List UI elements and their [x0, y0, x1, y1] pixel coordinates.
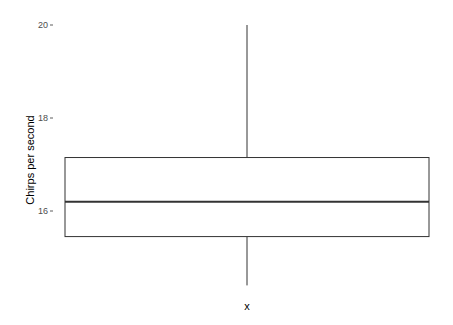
y-axis: 161820 — [38, 20, 53, 216]
y-tick-label: 16 — [38, 206, 48, 216]
plot-area — [65, 25, 429, 285]
y-axis-title: Chirps per second — [24, 115, 36, 204]
y-tick-label: 18 — [38, 113, 48, 123]
box-iqr — [65, 158, 429, 237]
y-tick-label: 20 — [38, 20, 48, 30]
boxplot-chart: 161820 Chirps per second x — [0, 0, 453, 325]
x-axis-title: x — [244, 300, 250, 312]
